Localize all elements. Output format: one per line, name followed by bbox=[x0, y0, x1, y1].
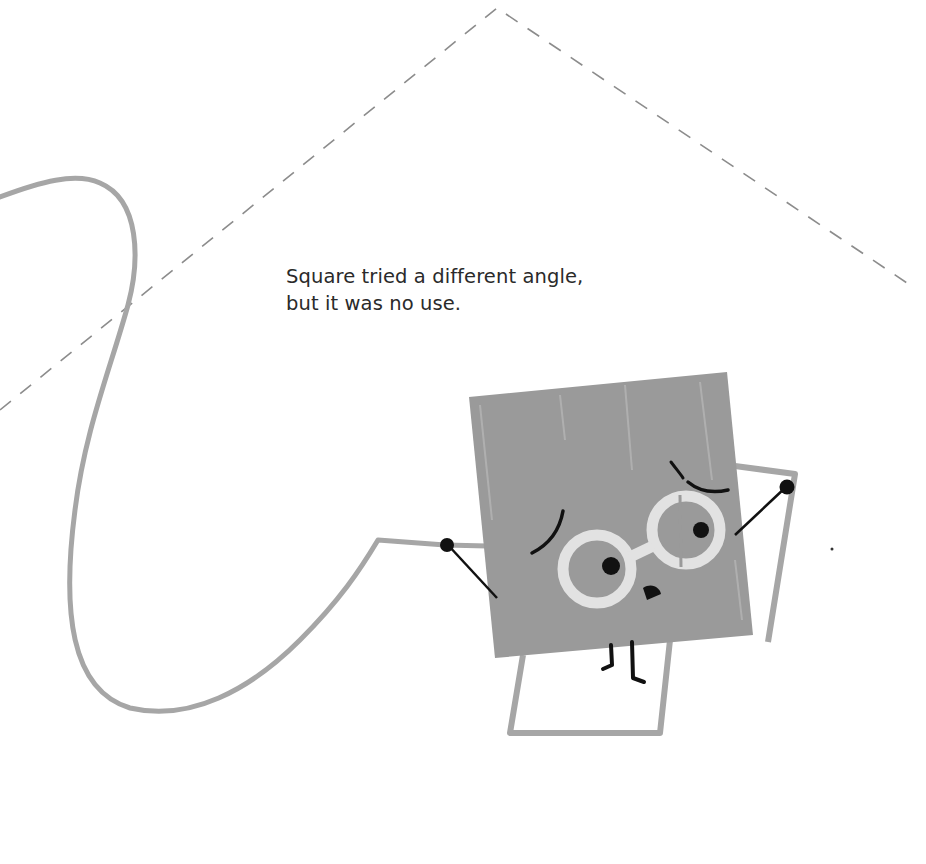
caption-line-1: Square tried a different angle, bbox=[286, 263, 583, 290]
left-pupil-icon bbox=[602, 557, 620, 575]
caption-line-2: but it was no use. bbox=[286, 290, 583, 317]
dashed-angle-outline bbox=[0, 8, 910, 410]
illustration bbox=[0, 0, 926, 864]
left-leg-icon bbox=[603, 645, 612, 669]
storybook-page: Square tried a different angle, but it w… bbox=[0, 0, 926, 864]
right-leg-icon bbox=[632, 642, 644, 682]
story-caption: Square tried a different angle, but it w… bbox=[286, 263, 583, 317]
speck-dot bbox=[831, 548, 834, 551]
right-hand-icon bbox=[780, 480, 795, 495]
left-hand-icon bbox=[440, 538, 454, 552]
square-character bbox=[469, 372, 753, 682]
right-pupil-icon bbox=[693, 522, 709, 538]
rope-line bbox=[0, 178, 445, 711]
